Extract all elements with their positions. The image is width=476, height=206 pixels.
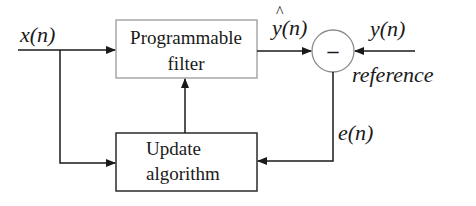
- adaptive-filter-diagram: Programmable filter Update algorithm – x…: [0, 0, 476, 206]
- output-estimate-label: y(n) ^: [270, 3, 307, 40]
- programmable-filter-block: Programmable filter: [116, 20, 257, 78]
- programmable-filter-label-line1: Programmable: [130, 27, 242, 48]
- hat-accent: ^: [276, 3, 284, 20]
- reference-signal-label: y(n): [368, 16, 405, 41]
- error-signal-label: e(n): [338, 120, 373, 145]
- update-algorithm-label-line1: Update: [146, 138, 201, 159]
- update-algorithm-label-line2: algorithm: [146, 163, 220, 184]
- programmable-filter-label-line2: filter: [168, 53, 206, 74]
- input-signal-label: x(n): [19, 22, 55, 47]
- minus-sign: –: [327, 38, 340, 63]
- reference-caption: reference: [352, 62, 434, 87]
- error-feedback-arrow: [258, 72, 333, 161]
- input-to-update-arrow: [60, 50, 115, 163]
- summing-junction: –: [312, 30, 354, 72]
- update-algorithm-block: Update algorithm: [116, 133, 257, 191]
